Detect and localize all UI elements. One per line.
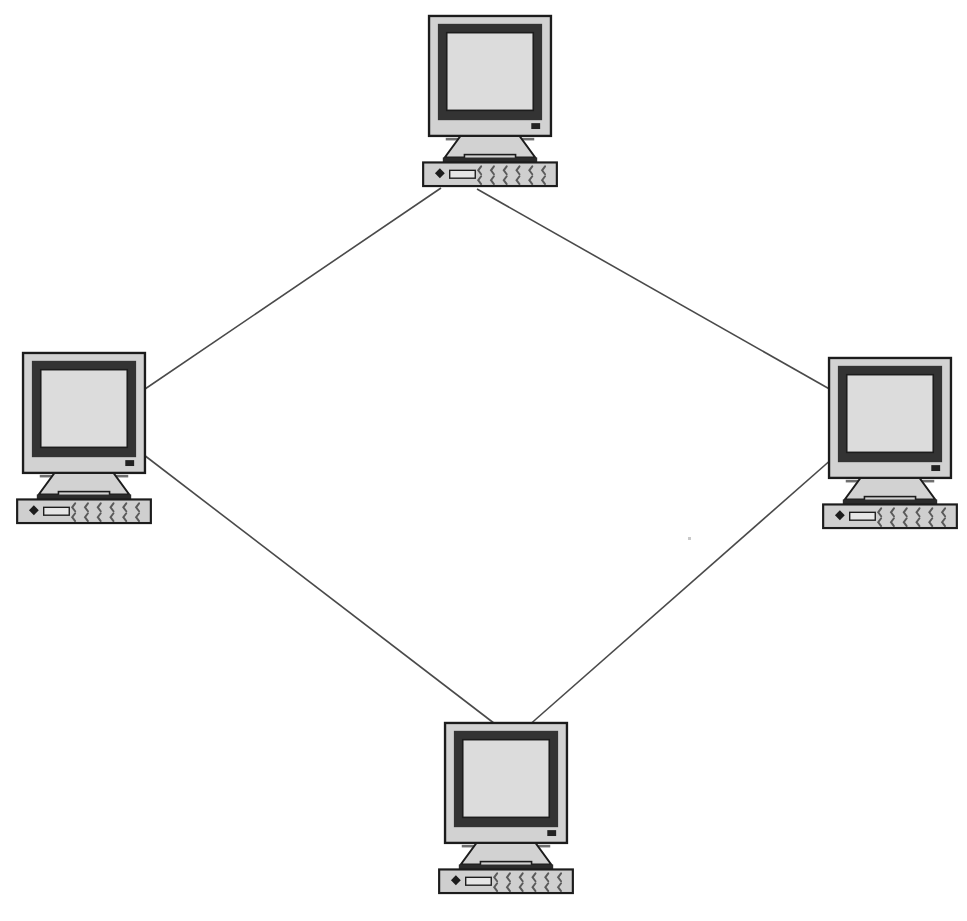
crt-computer-icon: [6, 351, 162, 526]
link-right-bottom[interactable]: [527, 458, 833, 727]
stray-speck: [688, 537, 691, 540]
crt-computer-icon: [428, 721, 584, 896]
computer-node-right[interactable]: [812, 356, 967, 531]
link-left-bottom[interactable]: [144, 455, 499, 727]
crt-computer-icon: [412, 14, 568, 189]
link-top-left[interactable]: [145, 188, 441, 389]
computer-node-bottom[interactable]: [428, 721, 584, 896]
network-diagram-canvas: [0, 0, 967, 921]
computer-node-left[interactable]: [6, 351, 162, 526]
crt-computer-icon: [812, 356, 967, 531]
link-top-right[interactable]: [477, 189, 833, 391]
bottom-caption: [6, 911, 426, 921]
computer-node-top[interactable]: [412, 14, 568, 189]
